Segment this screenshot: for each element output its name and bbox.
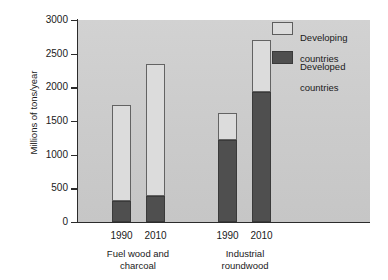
x-tick-label-roundwood-2010: 2010	[238, 230, 285, 241]
bar-fuelwood-1990	[112, 105, 131, 222]
chart-container: Millions of tons/year 3000 2500 2000 150…	[0, 0, 388, 280]
y-tick-2000	[71, 87, 78, 88]
y-tick-label-3000: 3000	[8, 14, 68, 25]
bar-segment-developing	[252, 40, 271, 92]
y-tick-1500	[71, 121, 78, 122]
y-tick-1000	[71, 155, 78, 156]
y-tick-label-1500: 1500	[8, 115, 68, 126]
group-label-fuelwood-line1: Fuel wood and	[78, 248, 198, 260]
y-tick-label-2000: 2000	[8, 81, 68, 92]
bar-segment-developed	[146, 196, 165, 222]
bar-segment-developing	[146, 64, 165, 197]
y-tick-3000	[71, 20, 78, 21]
bar-fuelwood-2010	[146, 64, 165, 222]
legend-label-developing-line1: Developing	[300, 33, 348, 44]
group-label-roundwood-line1: Industrial	[185, 248, 305, 260]
bar-segment-developing	[112, 105, 131, 201]
legend-label-developed-line1: Developed	[300, 62, 345, 73]
x-axis-line	[77, 222, 370, 223]
y-tick-2500	[71, 54, 78, 55]
legend-item-developed: Developed countries	[272, 51, 345, 104]
y-tick-label-500: 500	[8, 182, 68, 193]
bar-segment-developed	[218, 140, 237, 222]
x-tick-label-fuelwood-2010: 2010	[132, 230, 179, 241]
legend-label-developed: Developed countries	[300, 51, 345, 104]
legend-swatch-developing-icon	[272, 22, 293, 35]
group-label-roundwood: Industrial roundwood	[185, 248, 305, 271]
y-tick-label-2500: 2500	[8, 48, 68, 59]
bar-segment-developed	[252, 92, 271, 222]
y-tick-500	[71, 188, 78, 189]
group-label-fuelwood: Fuel wood and charcoal	[78, 248, 198, 271]
bar-segment-developed	[112, 201, 131, 222]
y-tick-0	[71, 222, 78, 223]
y-tick-label-1000: 1000	[8, 149, 68, 160]
group-label-roundwood-line2: roundwood	[185, 260, 305, 272]
bar-roundwood-1990	[218, 113, 237, 222]
bar-roundwood-2010	[252, 40, 271, 222]
group-label-fuelwood-line2: charcoal	[78, 260, 198, 272]
legend-label-developed-line2: countries	[300, 83, 345, 94]
y-tick-label-0: 0	[8, 216, 68, 227]
legend-swatch-developed-icon	[272, 51, 293, 64]
bar-segment-developing	[218, 113, 237, 140]
